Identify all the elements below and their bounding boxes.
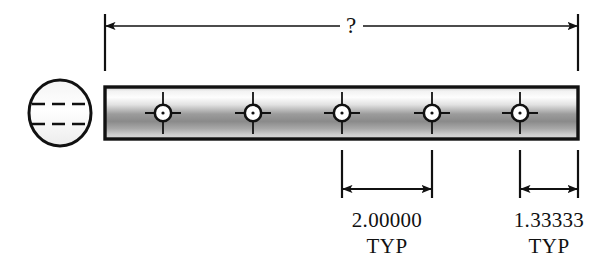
spacing-left-typ-note: TYP (366, 234, 407, 258)
hole-5-center-dot (518, 111, 521, 114)
overall-length-dimension: ? (105, 13, 578, 71)
circular-end-view (29, 80, 91, 146)
hole-3-center-dot (340, 111, 343, 114)
spacing-right-typ-note: TYP (528, 234, 569, 258)
hole-4-center-dot (430, 111, 433, 114)
spacing-dimension-left: 2.00000 TYP (342, 150, 432, 258)
spacing-right-value: 1.33333 (514, 208, 584, 232)
drawing-svg-surface: ? (0, 0, 611, 267)
hole-2-center-dot (251, 111, 254, 114)
spacing-left-value: 2.00000 (352, 208, 422, 232)
overall-length-value: ? (346, 13, 356, 38)
hole-1-center-dot (161, 111, 164, 114)
engineering-drawing-canvas: ? (0, 0, 611, 267)
end-view-outline (29, 80, 91, 146)
spacing-dimension-right: 1.33333 TYP (514, 150, 584, 258)
